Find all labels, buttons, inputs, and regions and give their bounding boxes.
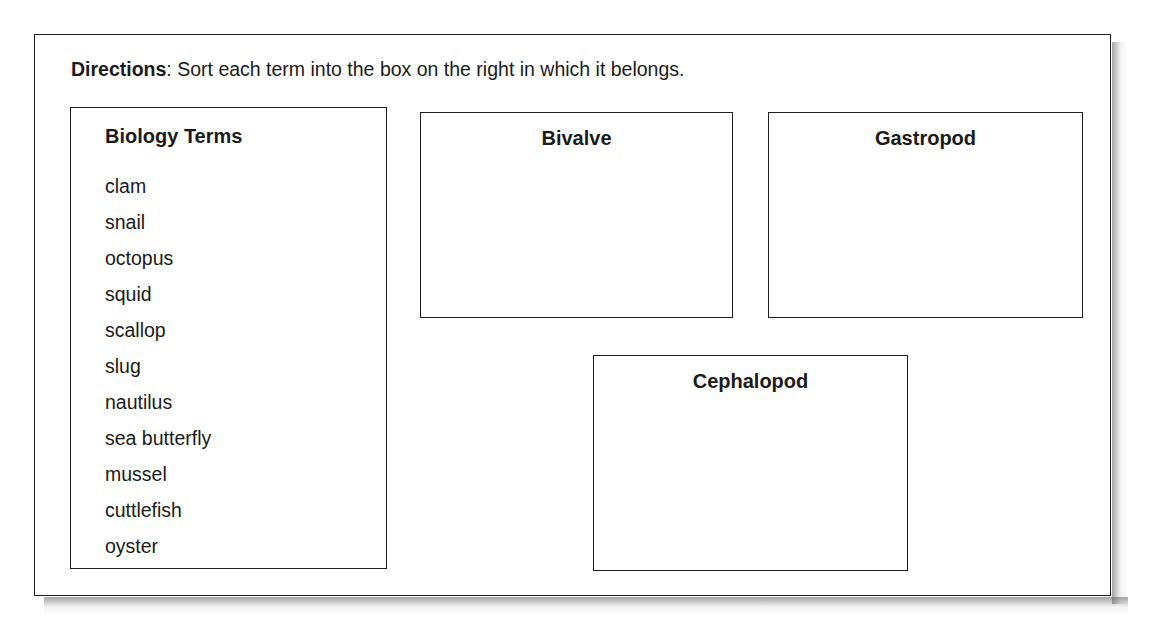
category-box-cephalopod[interactable]: Cephalopod	[593, 355, 908, 571]
term-item[interactable]: squid	[105, 276, 211, 312]
term-item[interactable]: clam	[105, 168, 211, 204]
category-title-cephalopod: Cephalopod	[594, 370, 907, 393]
category-box-gastropod[interactable]: Gastropod	[768, 112, 1083, 318]
term-item[interactable]: nautilus	[105, 384, 211, 420]
biology-terms-box[interactable]: Biology Terms clam snail octopus squid s…	[70, 107, 387, 569]
category-box-bivalve[interactable]: Bivalve	[420, 112, 733, 318]
worksheet-frame: Directions: Sort each term into the box …	[34, 34, 1111, 596]
term-item[interactable]: mussel	[105, 456, 211, 492]
biology-terms-title: Biology Terms	[105, 125, 242, 148]
category-title-gastropod: Gastropod	[769, 127, 1082, 150]
term-item[interactable]: slug	[105, 348, 211, 384]
term-item[interactable]: scallop	[105, 312, 211, 348]
page-shadow-bottom	[44, 597, 1128, 615]
biology-terms-list: clam snail octopus squid scallop slug na…	[105, 168, 211, 564]
directions-text: : Sort each term into the box on the rig…	[166, 58, 684, 80]
page-shadow-right	[1112, 42, 1128, 604]
directions: Directions: Sort each term into the box …	[71, 57, 684, 81]
category-title-bivalve: Bivalve	[421, 127, 732, 150]
term-item[interactable]: cuttlefish	[105, 492, 211, 528]
term-item[interactable]: octopus	[105, 240, 211, 276]
term-item[interactable]: oyster	[105, 528, 211, 564]
directions-label: Directions	[71, 58, 166, 80]
term-item[interactable]: sea butterfly	[105, 420, 211, 456]
term-item[interactable]: snail	[105, 204, 211, 240]
